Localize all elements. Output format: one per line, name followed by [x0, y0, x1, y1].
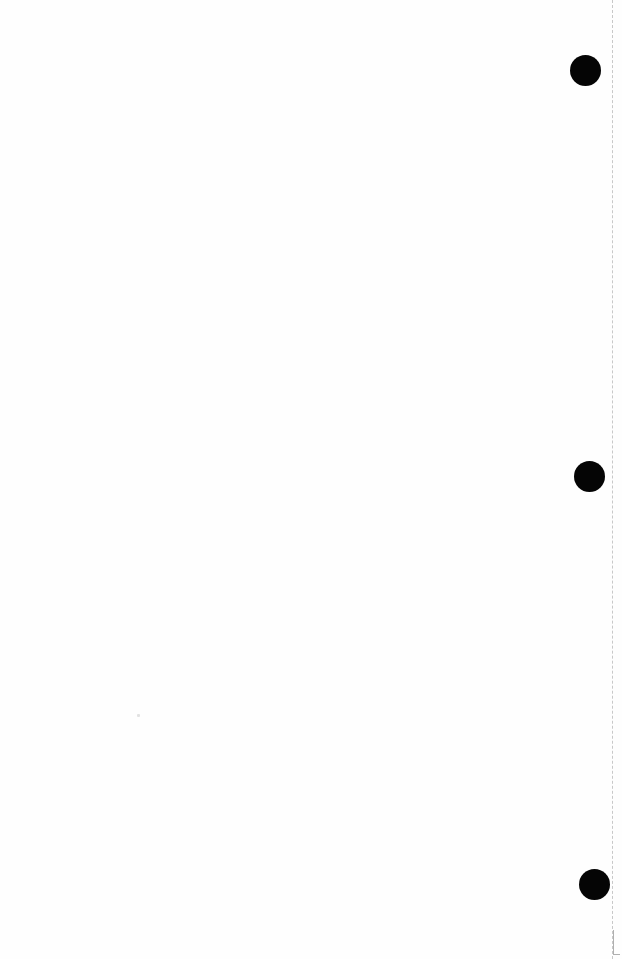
punch-hole-top: [570, 55, 601, 86]
punch-hole-bottom: [579, 869, 610, 900]
page-edge-line: [612, 0, 613, 959]
scanned-page: [0, 0, 622, 959]
scan-speck: [137, 714, 140, 717]
page-edge-corner: [613, 930, 620, 955]
punch-hole-middle: [574, 461, 605, 492]
